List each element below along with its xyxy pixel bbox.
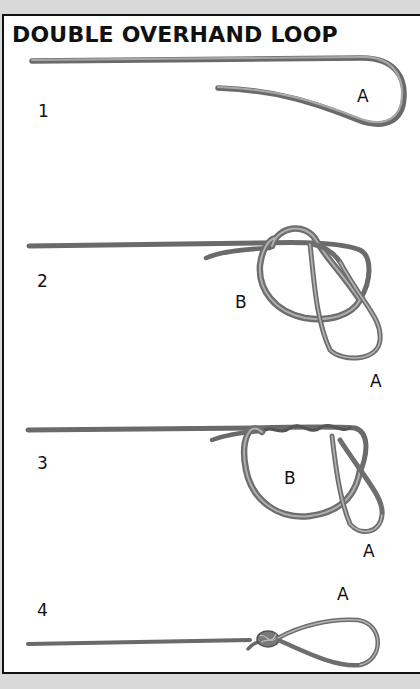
step-4-rope bbox=[28, 620, 378, 666]
step-1-rope bbox=[32, 57, 404, 124]
step-2-rope bbox=[29, 229, 380, 359]
step-3-rope bbox=[28, 425, 382, 531]
